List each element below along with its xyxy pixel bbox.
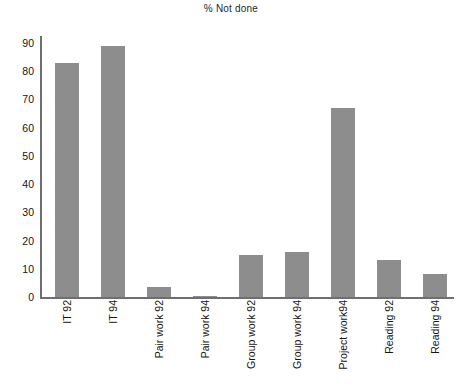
- x-axis-tick-label: IT 94: [108, 300, 119, 324]
- y-axis-tick-label: 20: [4, 235, 34, 246]
- y-axis-tick-label: 30: [4, 207, 34, 218]
- y-axis-tick-label: 90: [4, 38, 34, 49]
- y-axis-tick-labels: 9080706050403020100: [0, 36, 34, 298]
- y-axis-tick-label: 50: [4, 150, 34, 161]
- x-axis-tick-label: Group work 94: [292, 300, 303, 369]
- plot-area: [40, 36, 454, 298]
- x-axis-tick: Reading 94: [412, 300, 458, 385]
- x-axis-tick-labels: IT 92IT 94Pair work 92Pair work 94Group …: [40, 300, 454, 385]
- bar: [285, 252, 310, 297]
- y-axis-tick-label: 10: [4, 263, 34, 274]
- y-axis-tick-label: 80: [4, 66, 34, 77]
- x-axis-tick: IT 94: [90, 300, 136, 385]
- bars-layer: [40, 36, 454, 298]
- x-axis-tick: Group work 92: [228, 300, 274, 385]
- x-axis-tick: IT 92: [44, 300, 90, 385]
- x-axis-tick: Group work 94: [274, 300, 320, 385]
- x-axis-tick-label: Group work 92: [246, 300, 257, 369]
- x-axis-tick: Pair work 94: [182, 300, 228, 385]
- bar: [147, 287, 172, 297]
- bar: [101, 46, 126, 297]
- bar: [331, 108, 356, 297]
- bar: [193, 296, 218, 297]
- bar: [423, 274, 448, 297]
- y-axis-tick-label: 60: [4, 122, 34, 133]
- x-axis-tick-label: IT 92: [62, 300, 73, 324]
- x-axis-tick: Reading 92: [366, 300, 412, 385]
- chart-title: % Not done: [0, 3, 462, 14]
- x-axis-tick-label: Pair work 94: [200, 300, 211, 358]
- x-axis-tick: Project work94: [320, 300, 366, 385]
- bar: [239, 255, 264, 297]
- x-axis-tick-label: Pair work 92: [154, 300, 165, 358]
- bar: [55, 63, 80, 297]
- y-axis-tick-label: 70: [4, 94, 34, 105]
- y-axis-tick-label: 40: [4, 179, 34, 190]
- bar: [377, 260, 402, 297]
- bar-chart-figure: % Not done 9080706050403020100 IT 92IT 9…: [0, 0, 462, 385]
- x-axis-tick: Pair work 92: [136, 300, 182, 385]
- x-axis-tick-label: Reading 92: [384, 300, 395, 354]
- y-axis-tick-label: 0: [4, 292, 34, 303]
- x-axis-tick-label: Project work94: [338, 300, 349, 369]
- x-axis-tick-label: Reading 94: [430, 300, 441, 354]
